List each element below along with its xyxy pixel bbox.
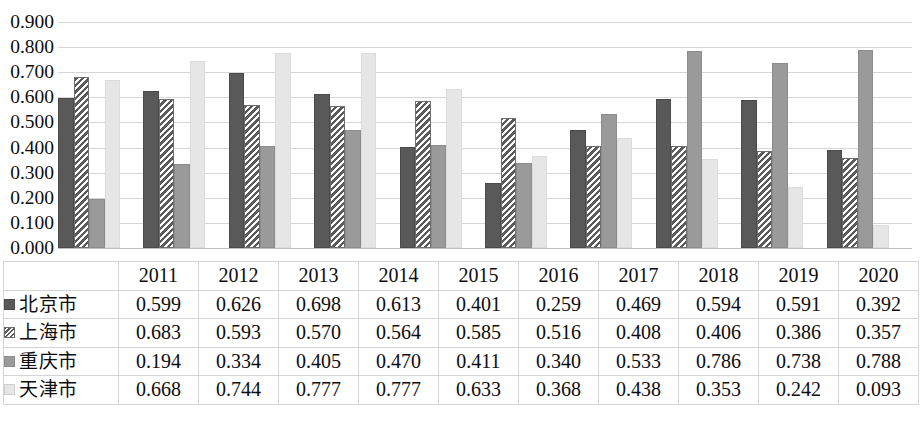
table-cell: 0.386 (759, 319, 839, 348)
table-column-header: 2017 (599, 262, 679, 291)
data-table: 2011201220132014201520162017201820192020… (3, 261, 919, 405)
table-cell: 0.357 (839, 319, 919, 348)
y-axis-tick-label: 0.800 (10, 37, 54, 57)
bar (772, 63, 788, 248)
table-cell: 0.570 (279, 319, 359, 348)
table-column-header: 2013 (279, 262, 359, 291)
bar-slot (532, 0, 548, 265)
bar (873, 225, 889, 248)
bar-slot (89, 0, 105, 265)
bar-group (314, 0, 399, 265)
bar (570, 130, 586, 248)
table-cell: 0.738 (759, 347, 839, 376)
table-column-header: 2020 (839, 262, 919, 291)
table-cell: 0.392 (839, 290, 919, 319)
legend-swatch-icon (4, 327, 15, 338)
chart-figure: 0.9000.8000.7000.6000.5000.4000.3000.200… (0, 0, 922, 426)
table-cell: 0.368 (519, 376, 599, 405)
bar (260, 146, 276, 248)
table-cell: 0.334 (199, 347, 279, 376)
table-cell: 0.438 (599, 376, 679, 405)
plot-area (58, 0, 912, 265)
table-cell: 0.194 (119, 347, 199, 376)
table-row-header: 北京市 (4, 290, 119, 319)
table-cell: 0.093 (839, 376, 919, 405)
y-axis-tick-label: 0.700 (10, 62, 54, 82)
bar (858, 50, 874, 248)
table-header-row: 2011201220132014201520162017201820192020 (4, 262, 919, 291)
series-label: 重庆市 (19, 352, 78, 371)
table-row: 重庆市0.1940.3340.4050.4700.4110.3400.5330.… (4, 347, 919, 376)
bar-slot (586, 0, 602, 265)
y-axis-tick-label: 0.000 (10, 238, 54, 258)
bar (400, 147, 416, 248)
y-axis-tick-label: 0.900 (10, 12, 54, 32)
table-cell: 0.777 (279, 376, 359, 405)
bar-slot (143, 0, 159, 265)
bar-slot (330, 0, 346, 265)
bar (361, 53, 377, 248)
table-cell: 0.533 (599, 347, 679, 376)
bar-slot (772, 0, 788, 265)
bar-slot (190, 0, 206, 265)
bar-slot (415, 0, 431, 265)
table-cell: 0.668 (119, 376, 199, 405)
bar (330, 106, 346, 248)
bar-slot (105, 0, 121, 265)
bar (827, 150, 843, 248)
series-label: 上海市 (19, 323, 78, 342)
bar-slot (159, 0, 175, 265)
table-cell: 0.411 (439, 347, 519, 376)
bar-groups (58, 0, 912, 265)
bar (586, 146, 602, 248)
legend-swatch-icon (4, 384, 15, 395)
bar (174, 164, 190, 248)
table-cell: 0.585 (439, 319, 519, 348)
table-cell: 0.683 (119, 319, 199, 348)
bar (741, 100, 757, 248)
bar (159, 99, 175, 248)
bar-slot (570, 0, 586, 265)
bar (656, 99, 672, 248)
bar-slot (275, 0, 291, 265)
data-table-region: 2011201220132014201520162017201820192020… (0, 261, 922, 405)
bar-slot (858, 0, 874, 265)
bar (89, 199, 105, 248)
bar (671, 146, 687, 248)
y-axis-tick-label: 0.200 (10, 188, 54, 208)
bar (842, 158, 858, 248)
series-label: 北京市 (19, 295, 78, 314)
bar-slot (687, 0, 703, 265)
bar-slot (501, 0, 517, 265)
bar-group (58, 0, 143, 265)
series-label: 天津市 (19, 380, 78, 399)
table-cell: 0.599 (119, 290, 199, 319)
table-column-header: 2018 (679, 262, 759, 291)
table-row: 北京市0.5990.6260.6980.6130.4010.2590.4690.… (4, 290, 919, 319)
table-cell: 0.242 (759, 376, 839, 405)
table-corner-cell (4, 262, 119, 291)
table-cell: 0.594 (679, 290, 759, 319)
bar-slot (74, 0, 90, 265)
y-axis-tick-label: 0.400 (10, 138, 54, 158)
table-cell: 0.698 (279, 290, 359, 319)
bar (532, 156, 548, 248)
bar-slot (446, 0, 462, 265)
bar (687, 51, 703, 248)
table-row: 上海市0.6830.5930.5700.5640.5850.5160.4080.… (4, 319, 919, 348)
table-cell: 0.788 (839, 347, 919, 376)
y-axis-tick-label: 0.600 (10, 88, 54, 108)
bar (788, 187, 804, 248)
y-axis-tick-label: 0.300 (10, 163, 54, 183)
bar (501, 118, 517, 248)
table-column-header: 2015 (439, 262, 519, 291)
bar-slot (702, 0, 718, 265)
bar-slot (244, 0, 260, 265)
table-cell: 0.401 (439, 290, 519, 319)
bar (74, 77, 90, 249)
table-column-header: 2014 (359, 262, 439, 291)
bar-group (229, 0, 314, 265)
table-row-header: 天津市 (4, 376, 119, 405)
table-cell: 0.591 (759, 290, 839, 319)
table-cell: 0.470 (359, 347, 439, 376)
